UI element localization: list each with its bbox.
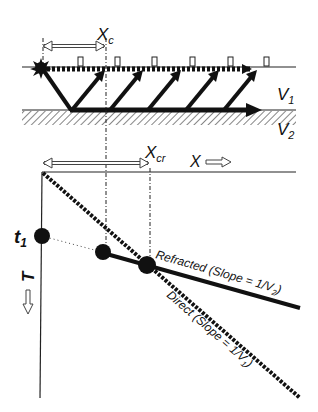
crossover-point <box>138 256 156 274</box>
intercept-time-label: t1 <box>14 226 27 250</box>
x-axis-label: X <box>189 153 202 170</box>
x-axis-direction-arrow <box>206 157 231 167</box>
geophones <box>78 57 269 66</box>
crossover-distance-arrow <box>43 158 149 168</box>
geophone-icon <box>190 57 195 66</box>
intercept-time-point <box>34 228 50 244</box>
geophone-icon <box>78 57 83 66</box>
t-axis-direction-arrow <box>23 290 33 314</box>
refracted-extrapolation <box>42 236 102 252</box>
critical-distance-label: Xc <box>96 25 114 46</box>
geophone-icon <box>228 57 233 66</box>
upgoing-refracted-rays <box>72 76 252 110</box>
geophone-icon <box>152 57 157 66</box>
geophone-icon <box>264 57 269 66</box>
t-axis-label: T <box>19 270 38 282</box>
upper-velocity-label: V1 <box>277 85 294 106</box>
refraction-diagram: Xc <box>0 0 318 412</box>
travel-time-plot: Xcr X t1 T Refracted <box>14 143 300 398</box>
t-axis <box>40 172 42 398</box>
critical-distance-arrow <box>43 41 105 51</box>
crossover-distance-label: Xcr <box>144 143 167 164</box>
direct-line-label: Direct (Slope = 1/V1) <box>163 288 256 372</box>
critical-distance-point <box>95 244 111 260</box>
geophone-icon <box>115 57 120 66</box>
source-explosion-icon <box>30 58 52 79</box>
ray-diagram-panel: Xc <box>22 25 296 141</box>
